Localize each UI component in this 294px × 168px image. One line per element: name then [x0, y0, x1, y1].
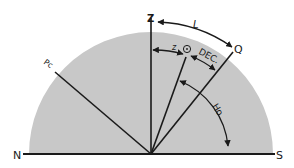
celestial-diagram: N S Z Q Pc L z DEC. Ho — [0, 0, 294, 168]
label-pole: Pc — [42, 57, 55, 70]
label-equator: Q — [234, 43, 243, 56]
label-south: S — [276, 149, 283, 162]
label-north: N — [13, 149, 21, 162]
label-latitude: L — [193, 19, 199, 30]
label-zenith-distance: z — [171, 43, 177, 52]
label-zenith: Z — [147, 13, 154, 24]
